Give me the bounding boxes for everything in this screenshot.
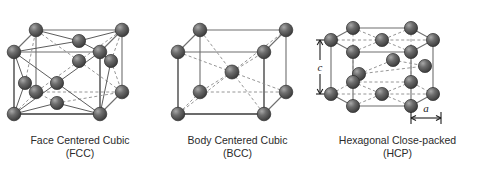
atom-bottom-corner xyxy=(426,87,439,100)
atom-bottom-corner xyxy=(404,99,417,112)
atom-corner xyxy=(193,23,207,37)
atom-top-corner xyxy=(404,21,417,34)
atom-top-corner xyxy=(426,33,439,46)
caption-hcp-line1: Hexagonal Close-packed xyxy=(339,134,456,146)
dimension-c-label: c xyxy=(318,61,323,73)
bcc-cube-front-edges xyxy=(178,52,264,114)
atom-corner xyxy=(93,45,107,59)
caption-bcc-line1: Body Centered Cubic xyxy=(188,134,288,146)
atom-face-center xyxy=(50,96,63,109)
face-centered-cubic-diagram xyxy=(0,8,160,132)
atom-bottom-corner xyxy=(324,87,337,100)
atom-bottom-face-center xyxy=(375,87,388,100)
caption-bcc: Body Centered Cubic (BCC) xyxy=(160,134,315,160)
atom-face-center xyxy=(72,54,85,67)
panel-bcc: Body Centered Cubic (BCC) xyxy=(160,0,315,175)
atom-top-corner xyxy=(404,45,417,58)
atom-face-center xyxy=(50,76,63,89)
atom-corner xyxy=(29,85,43,99)
atom-corner xyxy=(115,23,129,37)
atom-body-center xyxy=(225,65,239,79)
atom-corner xyxy=(257,107,271,121)
atom-top-corner xyxy=(346,21,359,34)
dimension-a-label: a xyxy=(423,102,429,114)
atom-corner xyxy=(7,45,21,59)
atom-middle-layer xyxy=(418,59,431,72)
atom-corner xyxy=(279,23,293,37)
dimension-c: c xyxy=(315,40,326,94)
bcc-atoms xyxy=(171,23,293,121)
atom-corner xyxy=(171,107,185,121)
atom-corner xyxy=(193,85,207,99)
atom-bottom-corner xyxy=(346,75,359,88)
atom-face-center xyxy=(18,76,31,89)
panel-fcc: Face Centered Cubic (FCC) xyxy=(0,0,160,175)
atom-corner xyxy=(279,85,293,99)
atom-corner xyxy=(93,107,107,121)
atom-top-face-center xyxy=(375,33,388,46)
bcc-cube-back-edges xyxy=(200,30,286,92)
crystal-structures-figure: Face Centered Cubic (FCC) xyxy=(0,0,480,175)
atom-face-center xyxy=(72,34,85,47)
caption-fcc: Face Centered Cubic (FCC) xyxy=(0,134,160,160)
hcp-atoms xyxy=(324,21,439,112)
caption-hcp-line2: (HCP) xyxy=(315,147,480,160)
atom-face-center xyxy=(104,54,117,67)
atom-corner xyxy=(29,23,43,37)
atom-corner xyxy=(115,85,129,99)
caption-hcp: Hexagonal Close-packed (HCP) xyxy=(315,134,480,160)
atom-bottom-corner xyxy=(404,75,417,88)
atom-top-corner xyxy=(346,45,359,58)
atom-corner xyxy=(171,45,185,59)
panel-hcp: c a Hexagonal Close-packed (HCP) xyxy=(315,0,480,175)
body-centered-cubic-diagram xyxy=(160,8,315,132)
caption-fcc-line2: (FCC) xyxy=(0,147,160,160)
caption-bcc-line2: (BCC) xyxy=(160,147,315,160)
atom-middle-layer xyxy=(386,53,399,66)
caption-fcc-line1: Face Centered Cubic xyxy=(30,134,129,146)
hexagonal-close-packed-diagram: c a xyxy=(315,8,480,132)
atom-top-corner xyxy=(324,33,337,46)
fcc-bond-network xyxy=(14,30,122,114)
atom-bottom-corner xyxy=(346,99,359,112)
atom-corner xyxy=(7,107,21,121)
atom-corner xyxy=(257,45,271,59)
